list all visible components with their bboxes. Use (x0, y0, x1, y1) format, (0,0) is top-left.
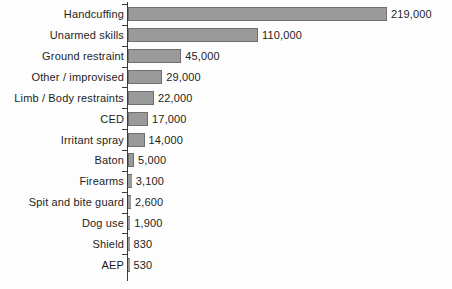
bar-value-label: 219,000 (391, 8, 432, 20)
bar (128, 216, 130, 230)
bar-value-label: 530 (134, 259, 153, 271)
category-label: Limb / Body restraints (14, 92, 124, 104)
category-label: Other / improvised (31, 71, 124, 83)
bar-row: Baton5,000 (0, 150, 452, 171)
bar-value-label: 45,000 (185, 50, 220, 62)
bar-chart: Handcuffing219,000Unarmed skills110,000G… (0, 0, 452, 289)
axis-tick (122, 4, 127, 5)
axis-tick (122, 213, 127, 214)
bar-value-label: 110,000 (262, 29, 302, 41)
bar (128, 174, 132, 188)
bar-row: Shield830 (0, 233, 452, 254)
bar-value-label: 5,000 (138, 154, 166, 166)
bar (128, 195, 131, 209)
bar-row: Other / improvised29,000 (0, 67, 452, 88)
bar-row: Firearms3,100 (0, 171, 452, 192)
bar (128, 7, 387, 21)
axis-tick (122, 233, 127, 234)
axis-tick (122, 129, 127, 130)
category-label: Ground restraint (42, 50, 124, 62)
bar (128, 70, 162, 84)
bar-row: Handcuffing219,000 (0, 4, 452, 25)
axis-tick (122, 25, 127, 26)
bar (128, 49, 181, 63)
bar-value-label: 1,900 (134, 217, 162, 229)
category-label: Shield (93, 238, 124, 250)
bar-value-label: 830 (134, 238, 153, 250)
category-label: Handcuffing (64, 8, 124, 20)
category-label: Irritant spray (61, 134, 124, 146)
bar-value-label: 14,000 (149, 134, 184, 146)
axis-tick (122, 87, 127, 88)
axis-tick (122, 171, 127, 172)
bar-value-label: 29,000 (166, 71, 201, 83)
category-label: CED (100, 113, 124, 125)
bar-value-label: 3,100 (136, 175, 164, 187)
axis-tick (122, 108, 127, 109)
bar-row: Spit and bite guard2,600 (0, 192, 452, 213)
bar-value-label: 17,000 (152, 113, 187, 125)
bar (128, 28, 258, 42)
axis-tick (122, 254, 127, 255)
category-label: Unarmed skills (50, 29, 124, 41)
bar (128, 237, 130, 251)
category-label: Baton (95, 154, 125, 166)
axis-tick (122, 46, 127, 47)
bar-rows: Handcuffing219,000Unarmed skills110,000G… (0, 0, 452, 289)
bar-row: AEP530 (0, 254, 452, 275)
bar (128, 258, 130, 272)
bar-row: Ground restraint45,000 (0, 46, 452, 67)
bar-row: Irritant spray14,000 (0, 129, 452, 150)
bar (128, 133, 145, 147)
bar (128, 91, 154, 105)
bar-value-label: 2,600 (135, 196, 163, 208)
bar-row: CED17,000 (0, 108, 452, 129)
category-label: Spit and bite guard (29, 196, 124, 208)
bar (128, 112, 148, 126)
bar-row: Dog use1,900 (0, 213, 452, 234)
bar (128, 153, 134, 167)
axis-tick (122, 67, 127, 68)
category-label: Dog use (82, 217, 124, 229)
axis-tick (122, 192, 127, 193)
bar-row: Limb / Body restraints22,000 (0, 87, 452, 108)
bar-row: Unarmed skills110,000 (0, 25, 452, 46)
category-label: Firearms (79, 175, 124, 187)
category-label: AEP (102, 259, 124, 271)
bar-value-label: 22,000 (158, 92, 193, 104)
axis-tick (122, 150, 127, 151)
